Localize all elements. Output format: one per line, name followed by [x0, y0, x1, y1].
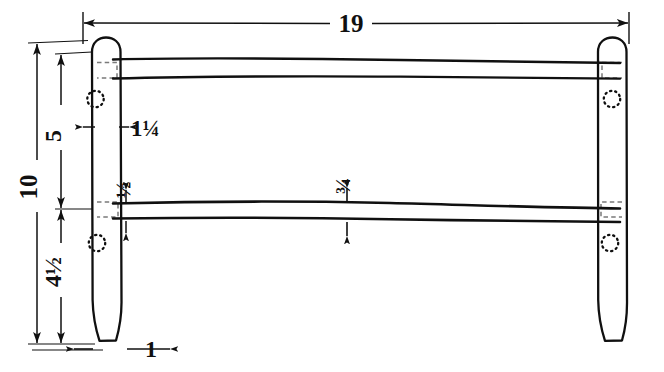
dimension-label-stile-width-bottom: 1: [145, 336, 157, 362]
dimension-label-rail-thickness-center: ¾: [330, 178, 355, 195]
technical-drawing-canvas: 19 10 5 4½ 1¼: [0, 0, 664, 372]
right-stile: [598, 38, 627, 341]
dimension-label-stile-width-upper: 1¼: [131, 116, 160, 141]
drawing-svg: 19 10 5 4½ 1¼: [0, 0, 664, 372]
dimension-label-overall-width: 19: [339, 10, 364, 37]
dimension-label-overall-height: 10: [15, 175, 42, 200]
dimension-label-lower-section-height: 4½: [40, 257, 66, 287]
dimension-label-rail-thickness-left: ½: [110, 182, 135, 199]
dimension-label-upper-section-height: 5: [40, 130, 66, 142]
